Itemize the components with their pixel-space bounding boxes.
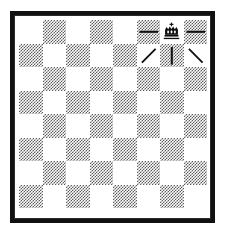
square-a8[interactable]: [19, 20, 43, 44]
square-g8[interactable]: [160, 20, 184, 44]
square-h1[interactable]: [184, 185, 208, 209]
square-e7[interactable]: [113, 44, 137, 68]
square-b4[interactable]: [43, 114, 67, 138]
square-f3[interactable]: [137, 138, 161, 162]
square-g3[interactable]: [160, 138, 184, 162]
square-d4[interactable]: [90, 114, 114, 138]
square-d8[interactable]: [90, 20, 114, 44]
square-h5[interactable]: [184, 91, 208, 115]
diagonal-slash-icon: [137, 44, 161, 68]
square-a6[interactable]: [19, 67, 43, 91]
square-c7[interactable]: [66, 44, 90, 68]
square-e2[interactable]: [113, 161, 137, 185]
square-a1[interactable]: [19, 185, 43, 209]
square-f4[interactable]: [137, 114, 161, 138]
square-e1[interactable]: [113, 185, 137, 209]
square-f8[interactable]: [137, 20, 161, 44]
square-e4[interactable]: [113, 114, 137, 138]
black-king-piece[interactable]: [160, 20, 184, 44]
square-g6[interactable]: [160, 67, 184, 91]
square-b1[interactable]: [43, 185, 67, 209]
square-c8[interactable]: [66, 20, 90, 44]
horizontal-dash-right-icon: [184, 20, 208, 44]
square-g2[interactable]: [160, 161, 184, 185]
vertical-bar-icon: [160, 44, 184, 68]
square-d7[interactable]: [90, 44, 114, 68]
square-h2[interactable]: [184, 161, 208, 185]
square-a5[interactable]: [19, 91, 43, 115]
square-f6[interactable]: [137, 67, 161, 91]
chess-diagram: [0, 0, 225, 234]
square-c1[interactable]: [66, 185, 90, 209]
square-g7[interactable]: [160, 44, 184, 68]
square-f1[interactable]: [137, 185, 161, 209]
square-d5[interactable]: [90, 91, 114, 115]
square-g1[interactable]: [160, 185, 184, 209]
square-h4[interactable]: [184, 114, 208, 138]
square-e6[interactable]: [113, 67, 137, 91]
square-h7[interactable]: [184, 44, 208, 68]
square-g4[interactable]: [160, 114, 184, 138]
horizontal-dash-left-icon: [137, 20, 161, 44]
square-d2[interactable]: [90, 161, 114, 185]
square-f2[interactable]: [137, 161, 161, 185]
square-h8[interactable]: [184, 20, 208, 44]
square-d6[interactable]: [90, 67, 114, 91]
diagonal-backslash-icon: [184, 44, 208, 68]
square-a7[interactable]: [19, 44, 43, 68]
square-c3[interactable]: [66, 138, 90, 162]
square-f7[interactable]: [137, 44, 161, 68]
square-c5[interactable]: [66, 91, 90, 115]
chess-board: [19, 20, 207, 208]
square-c4[interactable]: [66, 114, 90, 138]
square-b3[interactable]: [43, 138, 67, 162]
square-g5[interactable]: [160, 91, 184, 115]
square-a4[interactable]: [19, 114, 43, 138]
square-c2[interactable]: [66, 161, 90, 185]
square-a3[interactable]: [19, 138, 43, 162]
square-b6[interactable]: [43, 67, 67, 91]
square-d3[interactable]: [90, 138, 114, 162]
square-h3[interactable]: [184, 138, 208, 162]
square-b7[interactable]: [43, 44, 67, 68]
square-a2[interactable]: [19, 161, 43, 185]
square-e3[interactable]: [113, 138, 137, 162]
square-c6[interactable]: [66, 67, 90, 91]
square-b5[interactable]: [43, 91, 67, 115]
square-e8[interactable]: [113, 20, 137, 44]
square-e5[interactable]: [113, 91, 137, 115]
square-b2[interactable]: [43, 161, 67, 185]
square-d1[interactable]: [90, 185, 114, 209]
square-b8[interactable]: [43, 20, 67, 44]
square-h6[interactable]: [184, 67, 208, 91]
square-f5[interactable]: [137, 91, 161, 115]
